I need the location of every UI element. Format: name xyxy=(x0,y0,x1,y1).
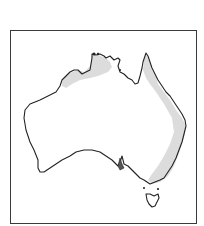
map-figure: Australia shaded distribution range xyxy=(0,0,204,226)
island-bathurst xyxy=(97,53,99,55)
island-groote xyxy=(119,69,121,71)
australia-map xyxy=(0,0,204,226)
range-east-coast xyxy=(143,54,185,184)
island-melville xyxy=(92,52,95,55)
island-king xyxy=(143,187,145,189)
island-flinders xyxy=(157,188,159,190)
tasmania-coastline xyxy=(146,194,159,207)
